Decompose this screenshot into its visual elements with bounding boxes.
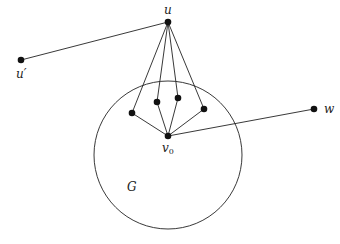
label-w: w [324, 102, 335, 116]
edge-v0-a4 [168, 109, 204, 136]
edge-u-a2 [157, 22, 168, 102]
node-a2 [154, 99, 161, 106]
node-w [311, 106, 318, 113]
node-a1 [129, 110, 136, 117]
node-a3 [175, 95, 182, 102]
node-u [165, 19, 172, 26]
graph-diagram: u u′ w v0 G [0, 0, 340, 244]
edge-v0-a2 [157, 102, 168, 136]
label-v0-sub: 0 [169, 147, 174, 156]
node-v0 [165, 133, 172, 140]
edge-u-uprime [21, 22, 168, 60]
edge-v0-a1 [132, 113, 168, 136]
label-u: u [164, 3, 172, 17]
label-G: G [127, 180, 137, 194]
edge-v0-a3 [168, 98, 178, 136]
edge-v0-w [168, 109, 314, 136]
edges [21, 22, 314, 136]
label-v0: v0 [162, 141, 174, 156]
nodes [18, 19, 318, 140]
node-a4 [201, 106, 208, 113]
edge-u-a1 [132, 22, 168, 113]
node-u-prime [18, 57, 25, 64]
label-u-prime: u′ [16, 67, 27, 81]
